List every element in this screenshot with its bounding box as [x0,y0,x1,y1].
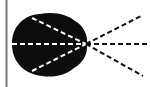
ray-upper [86,15,143,44]
ray-lower [86,44,143,76]
ray-diagram [0,0,150,87]
outer-dashed-rays [86,15,148,76]
